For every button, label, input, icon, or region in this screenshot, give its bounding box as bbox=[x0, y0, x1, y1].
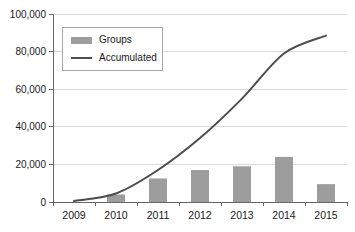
groups-bar-swatch bbox=[71, 37, 92, 44]
chart-legend: Groups Accumulated bbox=[62, 27, 163, 71]
bar-2011 bbox=[149, 179, 167, 203]
legend-item-accumulated: Accumulated bbox=[71, 52, 157, 64]
legend-label-groups: Groups bbox=[99, 34, 132, 46]
x-tick-label-2009: 2009 bbox=[62, 209, 86, 221]
legend-item-groups: Groups bbox=[71, 34, 157, 46]
y-tick-label-0: 0 bbox=[40, 197, 46, 208]
y-tick-label-40000: 40,000 bbox=[15, 121, 46, 132]
bar-2013 bbox=[233, 166, 251, 202]
legend-label-accumulated: Accumulated bbox=[99, 52, 157, 64]
bar-2015 bbox=[317, 184, 335, 202]
chart-canvas: 020,00040,00060,00080,000100,00020092010… bbox=[0, 0, 355, 232]
accumulated-line-swatch bbox=[71, 57, 92, 59]
x-tick-label-2012: 2012 bbox=[188, 209, 212, 221]
bar-2012 bbox=[191, 170, 209, 202]
y-tick-label-80000: 80,000 bbox=[15, 46, 46, 57]
y-tick-label-60000: 60,000 bbox=[15, 84, 46, 95]
y-tick-label-100000: 100,000 bbox=[10, 9, 47, 20]
y-tick-label-20000: 20,000 bbox=[15, 159, 46, 170]
x-tick-label-2011: 2011 bbox=[147, 209, 170, 221]
x-tick-label-2013: 2013 bbox=[230, 209, 254, 221]
x-tick-label-2015: 2015 bbox=[314, 209, 338, 221]
bar-2014 bbox=[275, 157, 293, 202]
x-tick-label-2010: 2010 bbox=[104, 209, 128, 221]
chart: 020,00040,00060,00080,000100,00020092010… bbox=[0, 0, 355, 232]
x-tick-label-2014: 2014 bbox=[272, 209, 296, 221]
